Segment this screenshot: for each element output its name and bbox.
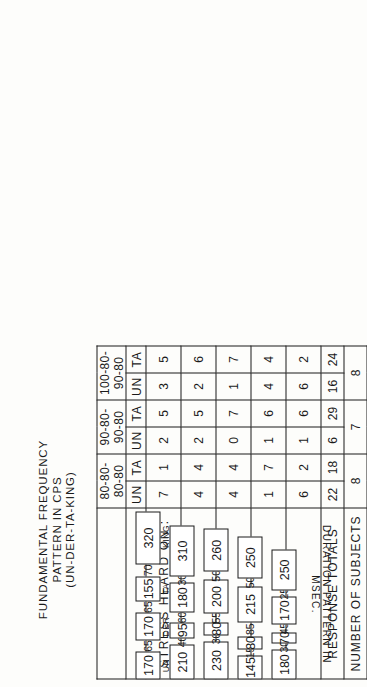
response-total-3: 29 (321, 400, 344, 427)
cell-r2-c0: 4 (216, 481, 251, 508)
cell-r0-c0: 7 (146, 481, 181, 508)
cell-r2-c5: 7 (216, 346, 251, 373)
sub-header-1-ta: TA (126, 400, 146, 427)
duration-row: 23030805520050260 (199, 509, 233, 679)
group-header-row: 80-80-80-80 90-80-90-80 100-80-90-80 (97, 346, 126, 679)
cell-r4-c1: 2 (286, 454, 321, 481)
duration-bar: 170 (135, 612, 160, 640)
cell-r2-c4: 1 (216, 373, 251, 400)
cell-r3-c1: 7 (251, 454, 286, 481)
duration-bar: 260 (203, 528, 228, 571)
duration-bar: 155 (135, 576, 160, 602)
duration-bar: 310 (169, 525, 194, 576)
duration-bar: 320 (135, 511, 160, 564)
response-total-2: 6 (321, 427, 344, 454)
sub-header-1-un: UN (126, 427, 146, 454)
duration-gap: 45 (272, 624, 294, 631)
cell-r1-c0: 4 (181, 481, 216, 508)
response-total-5: 24 (321, 346, 344, 373)
duration-gap: 60 (170, 612, 192, 622)
duration-gap: 30 (170, 576, 192, 582)
cell-r4-c4: 6 (286, 373, 321, 400)
duration-gap: 85 (238, 622, 260, 636)
duration-bar: 180 (169, 582, 194, 612)
number-of-subjects-row: NUMBER OF SUBJECTS 8 7 8 (344, 346, 367, 679)
cell-r4-c3: 6 (286, 400, 321, 427)
duration-gap: 65 (136, 640, 158, 651)
response-total-4: 16 (321, 373, 344, 400)
sub-header-0-un: UN (126, 481, 146, 508)
cell-r3-c3: 6 (251, 400, 286, 427)
duration-pattern-panel: 170UN65170DER65155TA70320KING21040956018… (131, 509, 301, 679)
duration-bar: 200 (203, 580, 228, 613)
cell-r1-c5: 6 (181, 346, 216, 373)
duration-row: 18030704517025250 (267, 509, 301, 679)
corner-blank-1 (97, 508, 126, 679)
duration-bar: 145 (237, 655, 262, 679)
duration-bar: 180 (271, 649, 296, 679)
figure-title: FUNDAMENTAL FREQUENCY PATTERN IN CPS (UN… (36, 379, 77, 679)
duration-gap: 50 (238, 578, 260, 586)
cell-r1-c4: 2 (181, 373, 216, 400)
response-total-1: 18 (321, 454, 344, 481)
title-line-2: PATTERN IN CPS (50, 379, 64, 679)
cell-r0-c2: 2 (146, 427, 181, 454)
cell-r0-c3: 5 (146, 400, 181, 427)
duration-gap: 65 (136, 601, 158, 612)
cell-r3-c4: 4 (251, 373, 286, 400)
sub-header-2-un: UN (126, 373, 146, 400)
duration-bar: 215 (237, 586, 262, 622)
cell-r4-c0: 6 (286, 481, 321, 508)
duration-gap: 40 (170, 638, 192, 645)
duration-row: 170UN65170DER65155TA70320KING (131, 509, 165, 679)
cell-r3-c2: 1 (251, 427, 286, 454)
title-line-3: (UN-DER-TA-KING) (63, 379, 77, 679)
duration-gap: 55 (204, 613, 226, 622)
cell-r3-c5: 4 (251, 346, 286, 373)
title-line-1: FUNDAMENTAL FREQUENCY (36, 379, 50, 679)
duration-bar: 250 (271, 549, 296, 590)
cell-r2-c2: 0 (216, 427, 251, 454)
sub-header-2-ta: TA (126, 346, 146, 373)
duration-bar: 170 (135, 651, 160, 679)
cell-r2-c3: 7 (216, 400, 251, 427)
duration-bar: 230 (203, 641, 228, 679)
duration-row: 14515808521550250 (233, 509, 267, 679)
response-total-0: 22 (321, 481, 344, 508)
sub-header-0-ta: TA (126, 454, 146, 481)
duration-row: 21040956018030310 (165, 509, 199, 679)
duration-bar: 95 (169, 622, 194, 638)
duration-gap: 30 (204, 635, 226, 641)
cell-r1-c2: 2 (181, 427, 216, 454)
group-header-1: 90-80-90-80 (97, 400, 126, 454)
cell-r0-c5: 5 (146, 346, 181, 373)
cell-r4-c2: 1 (286, 427, 321, 454)
cell-r1-c3: 5 (181, 400, 216, 427)
cell-r3-c0: 1 (251, 481, 286, 508)
cell-r0-c4: 3 (146, 373, 181, 400)
duration-gap: 50 (204, 571, 226, 579)
duration-bar: 250 (237, 536, 262, 577)
subjects-1: 7 (344, 400, 367, 454)
duration-bar: 170 (271, 596, 296, 624)
subjects-2: 8 (344, 346, 367, 400)
duration-bar: 210 (169, 644, 194, 679)
cell-r4-c5: 2 (286, 346, 321, 373)
cell-r2-c1: 4 (216, 454, 251, 481)
duration-gap: 15 (238, 649, 260, 655)
number-of-subjects-label: NUMBER OF SUBJECTS (344, 508, 367, 679)
cell-r1-c1: 4 (181, 454, 216, 481)
cell-r0-c1: 1 (146, 454, 181, 481)
duration-bar: 80 (237, 636, 262, 649)
group-header-0: 80-80-80-80 (97, 454, 126, 508)
duration-bar: 80 (203, 622, 228, 635)
group-header-2: 100-80-90-80 (97, 346, 126, 400)
subjects-0: 8 (344, 454, 367, 508)
duration-axis-label: DURATION PATTERN IN MSEC. (309, 509, 331, 679)
duration-gap: 70 (136, 564, 158, 576)
duration-gap: 25 (272, 590, 294, 596)
